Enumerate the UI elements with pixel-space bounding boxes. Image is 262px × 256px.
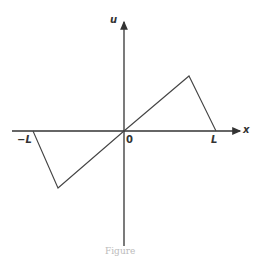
x-axis-label: x xyxy=(243,124,249,135)
neg-L-label: −L xyxy=(17,134,32,145)
origin-label: 0 xyxy=(126,134,133,145)
u-axis-label: u xyxy=(110,14,117,25)
figure-caption: Figure xyxy=(105,246,135,256)
diagram-canvas xyxy=(0,0,262,256)
pos-L-label: L xyxy=(211,134,217,145)
